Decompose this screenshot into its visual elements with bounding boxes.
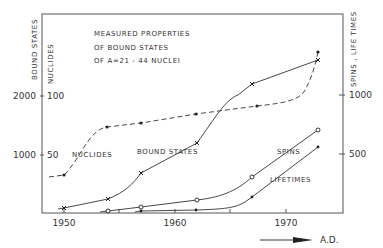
annotation-bound-states: BOUND STATES: [137, 148, 198, 156]
y-axis-label-spins-lifetimes: SPINS , LIFE TIMES: [350, 11, 358, 87]
chart-title-line: OF BOUND STATES: [94, 44, 169, 52]
series-bound-states-line: [58, 60, 318, 209]
arrow-head-icon: [293, 237, 313, 243]
annotation-lifetimes: LIFETIMES: [270, 176, 311, 184]
tick-label-x: 1950: [53, 218, 76, 228]
x-axis-label: A.D.: [320, 235, 339, 245]
tick-label-left-outer: 2000: [13, 91, 36, 101]
tick-label-left-outer: 1000: [13, 150, 36, 160]
tick-label-right: 500: [349, 149, 366, 159]
tick-label-right: 1000: [349, 90, 372, 100]
tick-label-x: 1970: [275, 218, 298, 228]
chart-title-line: OF A=21 - 44 NUCLEI: [94, 57, 180, 65]
y-axis-label-nuclides: NUCLIDES: [47, 44, 55, 84]
tick-label-left-inner: 100: [47, 91, 64, 101]
tick-label-left-inner: 50: [47, 150, 59, 160]
chart: 2000 1000 100 50 1000 500 1950 1960 1970…: [0, 0, 383, 248]
annotation-nuclides: NUCLIDES: [72, 151, 112, 159]
series-spins-markers: [106, 128, 320, 213]
y-axis-label-bound-states: BOUND STATES: [31, 19, 39, 80]
tick-label-x: 1960: [164, 218, 187, 228]
annotation-spins: SPINS: [277, 148, 300, 156]
series-bound-states-markers: [62, 58, 320, 210]
chart-title-line: MEASURED PROPERTIES: [94, 30, 190, 38]
series-spins-line: [100, 130, 318, 212]
